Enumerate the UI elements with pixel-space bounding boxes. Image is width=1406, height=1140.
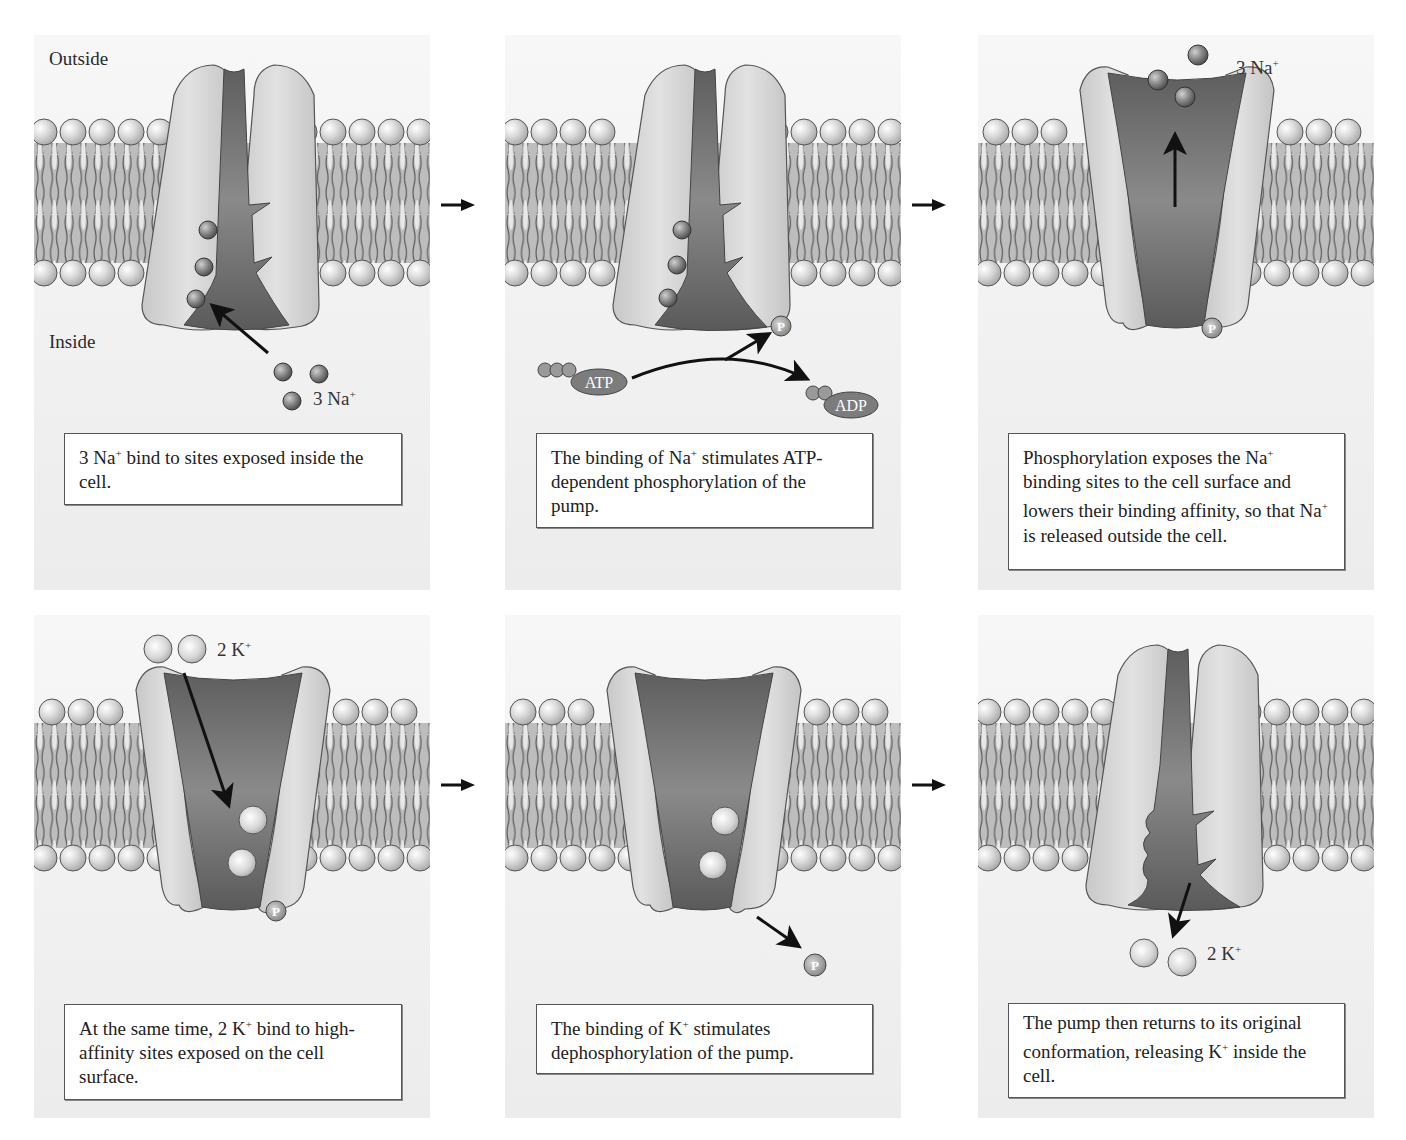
phosphate-bound-icon: P: [1202, 318, 1222, 338]
panel-step-2: P ATP ADP The binding of Na+ stimulates …: [505, 35, 901, 590]
inside-label: Inside: [49, 331, 95, 353]
caption-step-5: The binding of K+ stimulates dephosphory…: [536, 1004, 873, 1074]
svg-text:ADP: ADP: [835, 397, 867, 414]
outside-label: Outside: [49, 48, 108, 70]
pump-protein: [613, 65, 790, 331]
step-arrow-1-2: [441, 198, 475, 212]
caption-step-2: The binding of Na+ stimulates ATP-depend…: [536, 433, 873, 528]
svg-text:P: P: [777, 319, 785, 334]
step-arrow-2-3: [912, 198, 946, 212]
k-ion-group: [1130, 939, 1196, 976]
caption-step-3: Phosphorylation exposes the Na+ binding …: [1008, 433, 1345, 570]
phosphate-release-arrow: [757, 917, 797, 945]
panel-step-1: Outside Inside 3 Na+ 3 Na+ bind to sites…: [34, 35, 430, 590]
phosphate-bound-icon: P: [771, 316, 791, 336]
panel-step-6: 2 K+ The pump then returns to its origin…: [978, 615, 1374, 1118]
pump-protein: [142, 65, 319, 330]
caption-step-1: 3 Na+ bind to sites exposed inside the c…: [64, 433, 402, 505]
pump-protein: [1086, 645, 1263, 911]
svg-text:ATP: ATP: [585, 374, 614, 391]
svg-text:P: P: [1208, 321, 1216, 336]
na-ion-label: 3 Na+: [1236, 57, 1279, 79]
caption-step-4: At the same time, 2 K+ bind to high-affi…: [64, 1004, 402, 1100]
k-ion-label: 2 K+: [217, 639, 251, 661]
membrane-illustration: [34, 35, 430, 590]
phosphate-free-icon: P: [804, 954, 826, 976]
svg-text:P: P: [272, 904, 280, 919]
phosphate-bound-icon: P: [266, 901, 286, 921]
pump-protein: [1080, 67, 1274, 331]
panel-step-3: P 3 Na+ Phosphorylation exposes the Na+ …: [978, 35, 1374, 590]
k-ion-label: 2 K+: [1207, 943, 1241, 965]
panel-step-5: P The binding of K+ stimulates dephospho…: [505, 615, 901, 1118]
phosphate-transfer-arrow: [725, 335, 767, 360]
panel-step-4: P 2 K+ At the same time, 2 K+ bind to hi…: [34, 615, 430, 1118]
atp-molecule-icon: ATP: [538, 363, 627, 395]
step-arrow-5-6: [912, 778, 946, 792]
atp-to-adp-arrow: [632, 359, 805, 378]
pump-protein: [136, 667, 330, 913]
na-ion-label: 3 Na+: [313, 388, 356, 410]
caption-step-6: The pump then returns to its original co…: [1008, 1003, 1345, 1098]
step-arrow-4-5: [441, 778, 475, 792]
svg-text:P: P: [811, 958, 819, 973]
adp-molecule-icon: ADP: [806, 386, 878, 418]
